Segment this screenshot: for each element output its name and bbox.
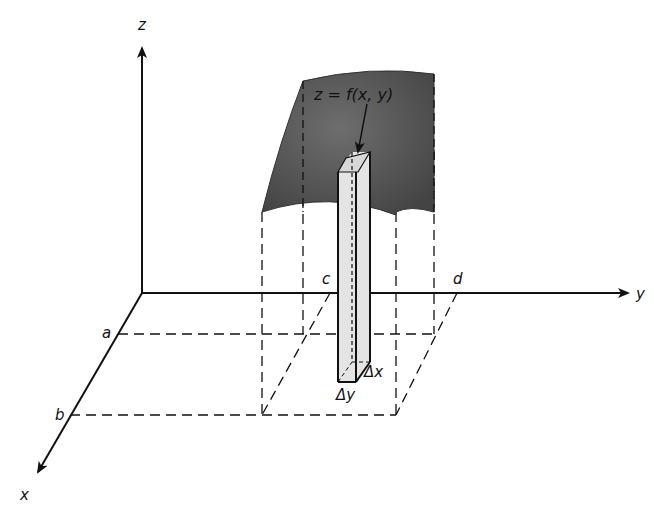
rectangular-column (338, 152, 370, 382)
delta-x-label: Δx (363, 363, 383, 381)
y-axis-label: y (635, 285, 646, 303)
z-axis-label: z (137, 16, 147, 34)
bound-a-label: a (102, 324, 111, 342)
bound-d-label: d (453, 270, 463, 288)
x-axis (38, 293, 142, 472)
function-label: z = f(x, y) (313, 85, 393, 104)
double-integral-diagram: z = f(x, y) z y x a b c d Δx Δy (0, 0, 654, 508)
bound-c-label: c (322, 270, 331, 288)
bound-b-label: b (55, 406, 65, 424)
delta-y-label: Δy (335, 386, 356, 404)
x-axis-label: x (19, 486, 29, 504)
